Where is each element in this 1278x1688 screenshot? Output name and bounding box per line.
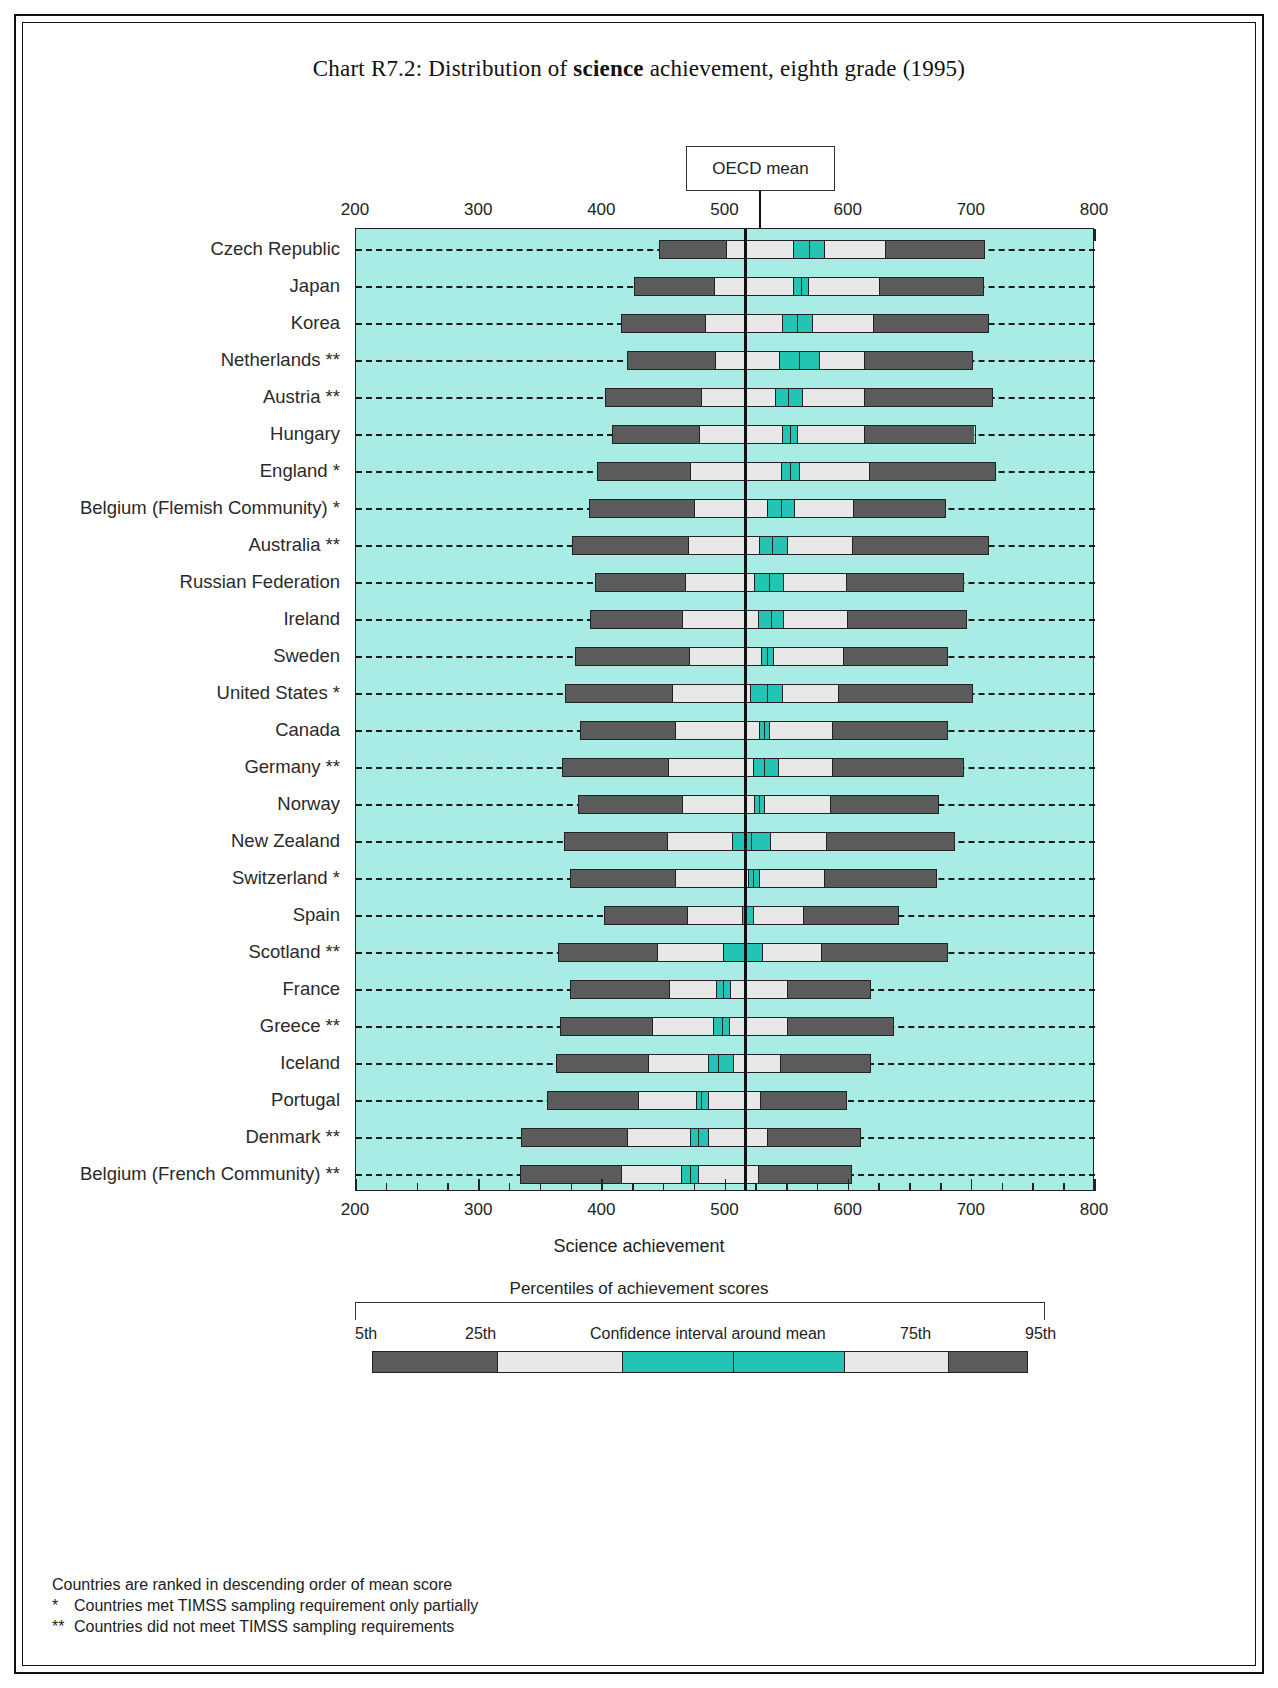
bar-rows <box>356 229 1093 1190</box>
percentile-bar <box>604 906 900 925</box>
seg-p25-ci <box>714 278 794 295</box>
seg-ci-high <box>781 500 794 517</box>
oecd-mean-stem <box>759 189 761 229</box>
seg-p25-ci <box>652 1018 713 1035</box>
seg-p25-ci <box>726 241 793 258</box>
seg-p75-p95 <box>853 500 945 517</box>
seg-ci-p75 <box>794 500 853 517</box>
country-label: Austria ** <box>0 386 340 408</box>
seg-ci-low <box>716 981 723 998</box>
seg-ci-high <box>722 1018 729 1035</box>
seg-p75-p95 <box>846 574 964 591</box>
seg-p5-p25 <box>576 648 689 665</box>
legend-label-ci: Confidence interval around mean <box>590 1325 826 1343</box>
chart-row <box>356 935 1095 972</box>
seg-ci-low <box>732 833 752 850</box>
seg-ci-high <box>788 389 801 406</box>
seg-ci-low <box>754 574 769 591</box>
seg-p75-p95 <box>879 278 983 295</box>
seg-p5-p25 <box>522 1129 627 1146</box>
seg-p5-p25 <box>635 278 713 295</box>
seg-ci-low <box>782 426 789 443</box>
axis-tick-label-400: 400 <box>587 1200 615 1220</box>
seg-ci-p75 <box>753 907 803 924</box>
chart-row <box>356 639 1095 676</box>
seg-ci-high <box>764 759 779 776</box>
country-label: Portugal <box>0 1089 340 1111</box>
country-label: Norway <box>0 793 340 815</box>
percentile-bar <box>556 1054 871 1073</box>
percentile-bar <box>570 980 871 999</box>
seg-p25-ci <box>627 1129 689 1146</box>
oecd-mean-label: OECD mean <box>712 159 808 179</box>
axis-tick-450 <box>663 1183 665 1191</box>
seg-ci-high <box>769 574 784 591</box>
axis-tick-label-600: 600 <box>833 200 861 220</box>
seg-p25-ci <box>701 389 775 406</box>
seg-ci-low <box>753 759 764 776</box>
axis-tick-350 <box>540 1183 542 1191</box>
axis-tick-label-300: 300 <box>464 1200 492 1220</box>
footnote-mark-2: ** <box>52 1616 74 1637</box>
seg-ci-p75 <box>729 1018 787 1035</box>
seg-ci-p75 <box>769 722 833 739</box>
axis-tick-375 <box>571 1183 573 1191</box>
seg-p25-ci <box>669 981 715 998</box>
seg-p5-p25 <box>559 944 657 961</box>
title-suffix: achievement, eighth grade (1995) <box>644 56 965 81</box>
seg-ci-p75 <box>733 1055 781 1072</box>
seg-p75-p95 <box>832 759 963 776</box>
country-label: Canada <box>0 719 340 741</box>
seg-p5-p25 <box>548 1092 639 1109</box>
country-label: Netherlands ** <box>0 349 340 371</box>
page-title: Chart R7.2: Distribution of science achi… <box>0 56 1278 82</box>
percentile-bar <box>547 1091 848 1110</box>
seg-p75-p95 <box>824 870 937 887</box>
seg-p75-p95 <box>821 944 947 961</box>
axis-tick-label-300: 300 <box>464 200 492 220</box>
axis-tick-275 <box>447 1183 449 1191</box>
country-label: Czech Republic <box>0 238 340 260</box>
seg-ci-high <box>746 944 762 961</box>
legend-seg-ci-low <box>622 1352 733 1372</box>
country-label: Hungary <box>0 423 340 445</box>
seg-ci-low <box>708 1055 718 1072</box>
percentile-bar <box>595 573 965 592</box>
seg-ci-low <box>723 944 746 961</box>
axis-tick-300 <box>478 1179 480 1191</box>
axis-tick-label-700: 700 <box>957 200 985 220</box>
chart-row <box>356 1083 1095 1120</box>
footnote-text-2: Countries did not meet TIMSS sampling re… <box>74 1618 454 1635</box>
axis-tick-575 <box>817 1183 819 1191</box>
chart-row <box>356 417 1095 454</box>
seg-ci-p75 <box>762 944 821 961</box>
seg-p5-p25 <box>563 759 668 776</box>
percentile-bar <box>621 314 989 333</box>
country-label: Iceland <box>0 1052 340 1074</box>
axis-tick-label-200: 200 <box>341 200 369 220</box>
axis-tick-800 <box>1094 1179 1096 1191</box>
axis-tick-600 <box>848 1179 850 1191</box>
chart-row <box>356 787 1095 824</box>
percentile-bar <box>560 1017 894 1036</box>
percentile-bar <box>572 536 990 555</box>
percentile-bar <box>605 388 993 407</box>
axis-tick-label-500: 500 <box>710 1200 738 1220</box>
percentile-bar <box>590 610 967 629</box>
country-label: Scotland ** <box>0 941 340 963</box>
country-label: Korea <box>0 312 340 334</box>
seg-ci-high <box>809 241 824 258</box>
seg-p5-p25 <box>557 1055 649 1072</box>
seg-ci-high <box>718 1055 733 1072</box>
seg-p25-ci <box>715 352 779 369</box>
oecd-mean-callout: OECD mean <box>686 146 835 191</box>
legend-label-25th: 25th <box>465 1325 496 1343</box>
seg-ci-p75 <box>812 315 873 332</box>
seg-p5-p25 <box>581 722 675 739</box>
percentile-bar <box>597 462 996 481</box>
country-label: Japan <box>0 275 340 297</box>
seg-ci-p75 <box>770 833 826 850</box>
seg-p75-p95 <box>760 1092 847 1109</box>
axis-tick-400 <box>601 1179 603 1191</box>
seg-p5-p25 <box>628 352 715 369</box>
